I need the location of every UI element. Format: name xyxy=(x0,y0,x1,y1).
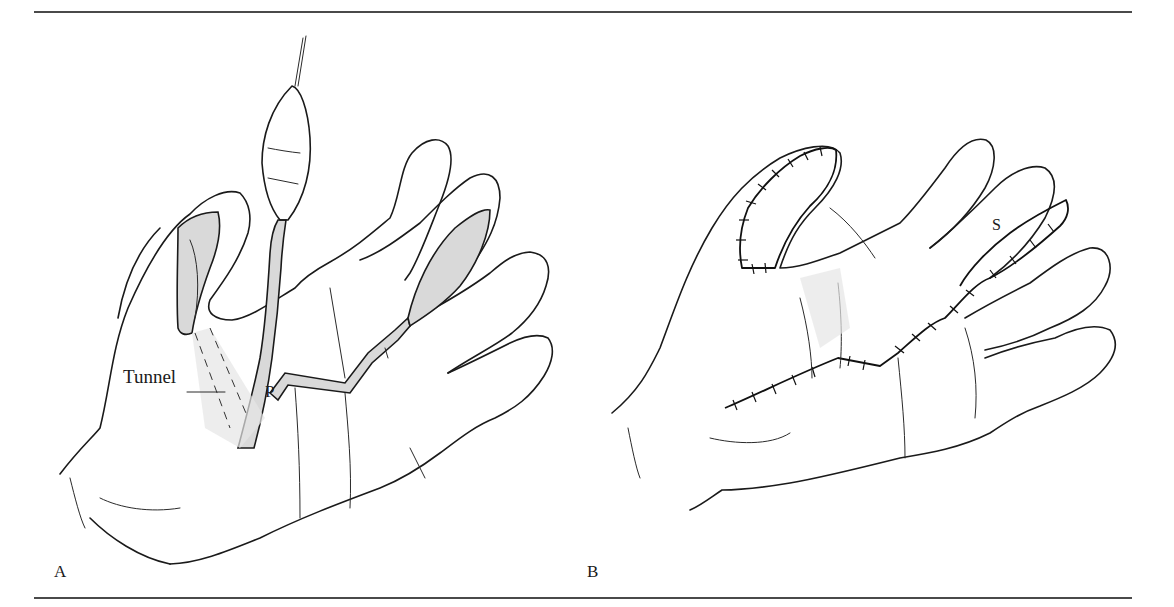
donor-site-callout: S xyxy=(992,216,1001,234)
hand-illustration-a xyxy=(0,14,587,594)
tunnel-callout: Tunnel xyxy=(123,366,176,388)
panel-label-b: B xyxy=(587,562,598,582)
pedicle-callout: P xyxy=(265,382,274,402)
panel-a: Tunnel P A xyxy=(0,14,587,594)
hand-illustration-b xyxy=(587,14,1174,594)
panel-label-a: A xyxy=(54,562,66,582)
top-rule xyxy=(34,11,1132,13)
bottom-rule xyxy=(34,597,1132,599)
panel-b: S B xyxy=(587,14,1174,594)
